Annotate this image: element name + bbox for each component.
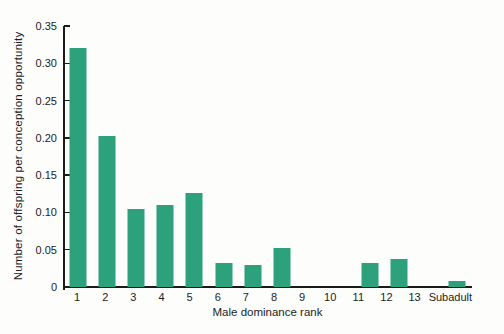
x-tick-label: 9 (288, 291, 316, 303)
x-tick-label: 8 (260, 291, 288, 303)
x-tick-label: 3 (119, 291, 147, 303)
x-tick-label: 2 (91, 291, 119, 303)
bar-rank-1 (69, 48, 86, 287)
bar-rank-2 (98, 136, 115, 287)
x-axis-title: Male dominance rank (63, 306, 472, 318)
y-tick-label: 0 (51, 281, 57, 293)
x-tick-label: 7 (232, 291, 260, 303)
y-tick-label: 0.05 (36, 244, 57, 256)
x-tick-label: 6 (204, 291, 232, 303)
y-tick-label: 0.30 (36, 57, 57, 69)
bar-rank-3 (128, 209, 145, 287)
y-tick-labels: 00.050.100.150.200.250.300.35 (0, 26, 57, 287)
x-tick-label: 10 (316, 291, 344, 303)
y-tick-label: 0.25 (36, 95, 57, 107)
x-tick-label: 11 (344, 291, 372, 303)
x-axis-line (63, 286, 472, 288)
x-tick-label: Subadult (429, 291, 472, 303)
bar-rank-6 (215, 263, 232, 287)
x-tick-label: 1 (63, 291, 91, 303)
y-tick-label: 0.35 (36, 20, 57, 32)
y-tick-label: 0.15 (36, 169, 57, 181)
x-tick-label: 5 (176, 291, 204, 303)
bar-rank-8 (274, 248, 291, 287)
x-tick-label: 4 (147, 291, 175, 303)
bar-rank-5 (186, 193, 203, 287)
y-tick-mark (64, 25, 70, 26)
plot-area (63, 26, 472, 287)
bar-chart-figure: Number of offspring per conception oppor… (0, 0, 504, 334)
bar-rank-4 (157, 205, 174, 287)
bar-rank-subadult (449, 281, 466, 287)
bar-rank-12 (390, 259, 407, 287)
x-tick-labels: 12345678910111213Subadult (63, 291, 472, 303)
bar-rank-7 (244, 265, 261, 287)
y-tick-label: 0.20 (36, 132, 57, 144)
bar-rank-11 (361, 263, 378, 287)
y-tick-label: 0.10 (36, 206, 57, 218)
x-tick-label: 13 (401, 291, 429, 303)
x-tick-label: 12 (372, 291, 400, 303)
